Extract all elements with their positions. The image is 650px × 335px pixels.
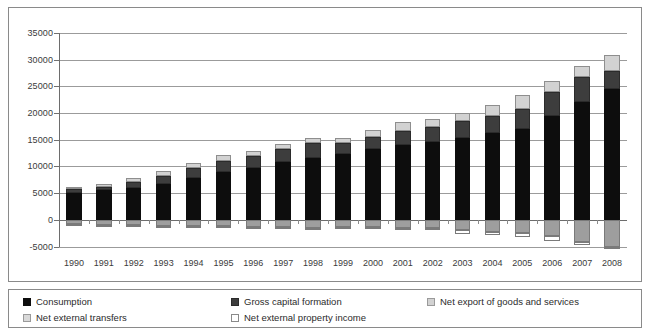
- bar-group[interactable]: [156, 8, 172, 281]
- bar-segment-gross-capital-formation[interactable]: [395, 131, 411, 145]
- bar-segment-net-external-property-income[interactable]: [216, 226, 232, 228]
- bar-segment-consumption[interactable]: [544, 116, 560, 220]
- bar-segment-net-external-property-income[interactable]: [275, 227, 291, 229]
- bar-segment-consumption[interactable]: [604, 89, 620, 220]
- bar-segment-net-export[interactable]: [305, 138, 321, 143]
- bar-group[interactable]: [275, 8, 291, 281]
- bar-segment-consumption[interactable]: [335, 154, 351, 220]
- bar-segment-net-export[interactable]: [216, 155, 232, 161]
- bar-segment-consumption[interactable]: [365, 149, 381, 220]
- bar-segment-consumption[interactable]: [425, 142, 441, 220]
- bar-segment-gross-capital-formation[interactable]: [156, 176, 172, 184]
- bar-segment-net-export[interactable]: [604, 55, 620, 72]
- bar-group[interactable]: [216, 8, 232, 281]
- bar-segment-net-external-transfers[interactable]: [604, 220, 620, 247]
- bar-segment-gross-capital-formation[interactable]: [246, 156, 262, 168]
- bar-segment-consumption[interactable]: [66, 193, 82, 220]
- bar-segment-gross-capital-formation[interactable]: [66, 189, 82, 192]
- bar-group[interactable]: [485, 8, 501, 281]
- bar-segment-consumption[interactable]: [305, 158, 321, 220]
- bar-segment-consumption[interactable]: [455, 138, 471, 220]
- bar-segment-net-export[interactable]: [246, 151, 262, 156]
- bar-segment-consumption[interactable]: [515, 129, 531, 220]
- bar-segment-net-external-property-income[interactable]: [604, 247, 620, 250]
- bar-segment-net-external-transfers[interactable]: [246, 220, 262, 227]
- bar-segment-net-external-property-income[interactable]: [156, 226, 172, 228]
- bar-segment-net-external-property-income[interactable]: [515, 233, 531, 237]
- bar-group[interactable]: [186, 8, 202, 281]
- bar-segment-net-external-property-income[interactable]: [96, 225, 112, 227]
- bar-group[interactable]: [515, 8, 531, 281]
- bar-group[interactable]: [126, 8, 142, 281]
- bar-group[interactable]: [365, 8, 381, 281]
- bar-segment-gross-capital-formation[interactable]: [425, 127, 441, 141]
- bar-segment-net-export[interactable]: [455, 113, 471, 122]
- bar-segment-net-external-transfers[interactable]: [305, 220, 321, 228]
- bar-segment-net-external-transfers[interactable]: [275, 220, 291, 227]
- bar-segment-gross-capital-formation[interactable]: [515, 109, 531, 128]
- bar-segment-consumption[interactable]: [574, 102, 590, 220]
- bar-segment-gross-capital-formation[interactable]: [365, 137, 381, 149]
- legend-item[interactable]: Consumption: [23, 296, 92, 307]
- bar-segment-consumption[interactable]: [246, 168, 262, 220]
- bar-group[interactable]: [305, 8, 321, 281]
- bar-group[interactable]: [395, 8, 411, 281]
- bar-segment-net-external-transfers[interactable]: [395, 220, 411, 228]
- bar-segment-gross-capital-formation[interactable]: [216, 161, 232, 172]
- bar-segment-net-external-transfers[interactable]: [544, 220, 560, 237]
- bar-segment-net-external-transfers[interactable]: [365, 220, 381, 227]
- bar-segment-consumption[interactable]: [395, 145, 411, 220]
- bar-segment-net-external-transfers[interactable]: [485, 220, 501, 232]
- bar-segment-net-external-property-income[interactable]: [246, 227, 262, 229]
- bar-segment-net-export[interactable]: [544, 81, 560, 92]
- bar-segment-net-export[interactable]: [485, 105, 501, 116]
- bar-segment-gross-capital-formation[interactable]: [126, 182, 142, 188]
- bar-segment-net-export[interactable]: [156, 171, 172, 175]
- bar-segment-gross-capital-formation[interactable]: [305, 143, 321, 158]
- bar-segment-net-external-transfers[interactable]: [335, 220, 351, 227]
- bar-segment-net-external-property-income[interactable]: [544, 236, 560, 240]
- bar-group[interactable]: [96, 8, 112, 281]
- bar-segment-net-export[interactable]: [574, 66, 590, 77]
- bar-segment-net-external-property-income[interactable]: [126, 225, 142, 227]
- legend-item[interactable]: Net export of goods and services: [427, 296, 579, 307]
- bar-segment-net-external-property-income[interactable]: [425, 228, 441, 230]
- bar-segment-consumption[interactable]: [216, 172, 232, 220]
- bar-group[interactable]: [246, 8, 262, 281]
- bar-segment-net-external-property-income[interactable]: [335, 227, 351, 229]
- bar-group[interactable]: [455, 8, 471, 281]
- bar-group[interactable]: [66, 8, 82, 281]
- bar-segment-net-export[interactable]: [515, 95, 531, 109]
- bar-segment-gross-capital-formation[interactable]: [604, 71, 620, 89]
- bar-segment-net-external-property-income[interactable]: [186, 226, 202, 228]
- bar-segment-net-export[interactable]: [425, 119, 441, 128]
- bar-segment-net-export[interactable]: [365, 130, 381, 137]
- bar-segment-net-export[interactable]: [96, 184, 112, 187]
- legend-item[interactable]: Gross capital formation: [231, 296, 342, 307]
- bar-segment-net-external-transfers[interactable]: [574, 220, 590, 242]
- bar-segment-net-export[interactable]: [275, 144, 291, 149]
- bar-segment-gross-capital-formation[interactable]: [455, 121, 471, 138]
- bar-segment-gross-capital-formation[interactable]: [335, 143, 351, 154]
- bar-segment-net-external-property-income[interactable]: [485, 232, 501, 236]
- bar-segment-net-export[interactable]: [395, 122, 411, 131]
- bar-group[interactable]: [425, 8, 441, 281]
- bar-segment-net-external-property-income[interactable]: [574, 242, 590, 245]
- legend-item[interactable]: Net external transfers: [23, 312, 127, 323]
- bar-segment-gross-capital-formation[interactable]: [485, 116, 501, 133]
- legend-item[interactable]: Net external property income: [231, 312, 366, 323]
- bar-segment-net-external-property-income[interactable]: [66, 224, 82, 226]
- bar-segment-gross-capital-formation[interactable]: [96, 187, 112, 191]
- bar-segment-gross-capital-formation[interactable]: [544, 92, 560, 115]
- bar-segment-consumption[interactable]: [156, 184, 172, 220]
- bar-group[interactable]: [335, 8, 351, 281]
- bar-segment-net-external-transfers[interactable]: [515, 220, 531, 233]
- bar-group[interactable]: [604, 8, 620, 281]
- bar-segment-net-external-property-income[interactable]: [365, 227, 381, 229]
- bar-segment-net-external-property-income[interactable]: [455, 230, 471, 234]
- bar-segment-consumption[interactable]: [186, 178, 202, 220]
- bar-segment-net-export[interactable]: [186, 163, 202, 167]
- bar-group[interactable]: [574, 8, 590, 281]
- bar-segment-net-external-transfers[interactable]: [455, 220, 471, 230]
- bar-segment-consumption[interactable]: [126, 188, 142, 220]
